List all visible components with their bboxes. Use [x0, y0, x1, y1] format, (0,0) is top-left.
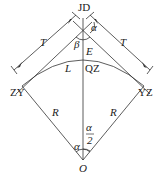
tick	[11, 66, 17, 74]
right-radius-line	[83, 86, 144, 160]
label-JD: JD	[78, 1, 90, 13]
tick	[147, 66, 153, 74]
label-R-left: R	[51, 106, 59, 118]
label-beta: β	[73, 38, 80, 50]
right-tangent-line	[73, 21, 150, 94]
curve-diagram: JD α β E L QZ T T ZY YZ R R α α 2 O	[0, 0, 164, 177]
label-YZ: YZ	[138, 86, 153, 98]
label-T-left: T	[40, 36, 47, 48]
label-QZ: QZ	[85, 62, 100, 74]
label-O: O	[79, 162, 87, 174]
label-half-alpha-num: α	[86, 121, 92, 133]
label-E: E	[85, 45, 93, 57]
label-R-right: R	[109, 106, 117, 118]
label-alpha-center: α	[74, 140, 80, 152]
label-alpha-top: α	[91, 21, 97, 33]
label-L: L	[64, 62, 71, 74]
label-half-alpha-den: 2	[87, 134, 93, 146]
label-T-right: T	[120, 36, 127, 48]
label-ZY: ZY	[10, 86, 25, 98]
